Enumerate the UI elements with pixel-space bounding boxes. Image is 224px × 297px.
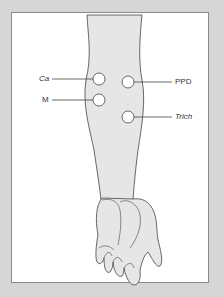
arm-illustration <box>0 0 224 297</box>
forearm-shape <box>85 15 144 200</box>
label-trich: Trich <box>175 113 192 121</box>
label-m: M <box>42 96 49 104</box>
test-site-m <box>93 94 105 106</box>
test-site-trich <box>122 111 134 123</box>
label-ca: Ca <box>39 75 49 83</box>
test-site-ppd <box>122 76 134 88</box>
label-ppd: PPD <box>175 78 191 86</box>
test-site-ca <box>93 73 105 85</box>
hand-shape <box>96 198 162 285</box>
